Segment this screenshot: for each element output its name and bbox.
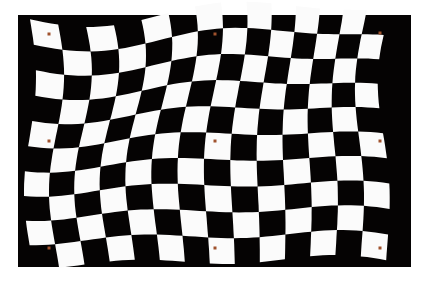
checker-square — [181, 106, 211, 132]
checker-square — [268, 30, 294, 58]
marker-dot — [48, 33, 51, 36]
marker-dot — [48, 247, 51, 250]
checker-square — [50, 147, 79, 173]
checker-square — [221, 28, 247, 55]
marker-dot — [379, 140, 382, 143]
checker-square — [283, 158, 311, 185]
checker-square — [77, 214, 106, 241]
checker-square — [125, 159, 152, 186]
checker-square — [86, 25, 118, 51]
checker-square — [152, 132, 181, 159]
checker-square — [180, 210, 208, 238]
checker-square — [55, 241, 84, 268]
checker-square — [204, 185, 232, 212]
checker-square — [311, 181, 338, 207]
checker-square — [336, 156, 364, 181]
checker-square — [195, 3, 223, 32]
checker-square — [232, 212, 259, 238]
checkerboard-image — [0, 0, 426, 282]
checker-square — [28, 121, 58, 149]
marker-dot — [379, 32, 382, 35]
checker-square — [258, 185, 286, 212]
checker-square — [283, 109, 308, 135]
checker-square — [337, 205, 364, 231]
checker-square — [355, 83, 380, 109]
checker-square — [35, 70, 64, 99]
checker-square — [260, 235, 286, 263]
checker-square — [240, 55, 268, 83]
checker-square — [100, 186, 128, 214]
checker-square — [357, 34, 383, 59]
marker-dot — [214, 33, 217, 36]
checker-square — [58, 100, 89, 125]
checker-square — [178, 158, 205, 185]
checker-square — [208, 237, 235, 264]
checker-square — [364, 181, 390, 209]
checker-square — [310, 230, 337, 256]
checker-square — [308, 132, 336, 158]
marker-dot — [379, 247, 382, 250]
checker-square — [230, 160, 257, 186]
checker-square — [128, 209, 157, 235]
checker-square — [192, 54, 221, 81]
marker-dot — [48, 140, 51, 143]
checker-square — [204, 133, 232, 161]
checker-square — [313, 34, 339, 59]
checker-square — [62, 50, 92, 76]
checker-square — [26, 221, 55, 246]
checker-square — [294, 6, 320, 34]
checker-square — [24, 171, 50, 197]
marker-dot — [214, 247, 217, 250]
checker-square — [106, 235, 135, 261]
checker-square — [232, 107, 260, 134]
checker-square — [257, 135, 283, 161]
marker-dot — [214, 140, 217, 143]
checker-square — [308, 83, 333, 109]
checker-square — [89, 73, 119, 100]
checker-square — [358, 131, 387, 158]
checker-square — [74, 167, 100, 195]
checker-square — [260, 83, 287, 110]
checker-square — [152, 184, 180, 210]
checker-square — [361, 231, 388, 260]
checker-square — [332, 58, 357, 83]
checker-square — [287, 58, 313, 84]
checker-square — [49, 194, 77, 220]
checker-square — [332, 107, 359, 132]
checker-square — [157, 235, 185, 262]
checker-square — [285, 207, 311, 235]
checker-square — [247, 2, 272, 30]
